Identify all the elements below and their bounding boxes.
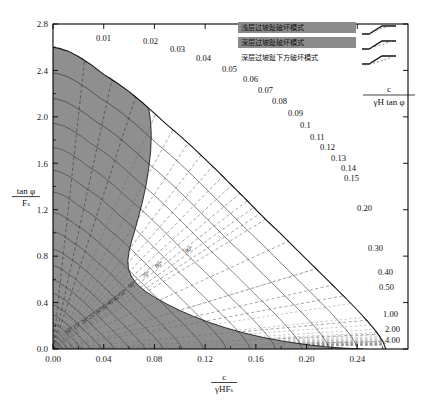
radial-contour-label: 1.00 [383, 309, 398, 319]
radial-contour-label: 0.04 [196, 53, 212, 63]
x-axis-numerator: c [222, 372, 226, 382]
radial-contour-label: 0.01 [96, 33, 111, 43]
x-tick-label: 0.08 [147, 354, 163, 364]
legend-label: 深层过坡趾破坏模式 [241, 38, 304, 47]
radial-contour-label: 0.11 [310, 132, 325, 142]
legend-param-numerator: c [387, 84, 391, 94]
x-axis-denominator: γHFₛ [214, 384, 233, 394]
radial-contour-label: 0.15 [344, 173, 359, 183]
legend-param-denominator: γH tan φ [372, 97, 404, 107]
y-tick-label: 0.8 [37, 251, 49, 261]
chart-container: 0.000.040.080.120.160.200.240.00.40.81.2… [0, 0, 448, 404]
legend-item: 深层过坡趾破坏模式 [238, 37, 356, 48]
y-tick-label: 1.2 [37, 205, 48, 215]
x-tick-label: 0.20 [299, 354, 315, 364]
radial-contour-label: 0.13 [331, 153, 346, 163]
y-axis-numerator: tan φ [17, 186, 35, 196]
radial-contour-label: 0.50 [379, 282, 394, 292]
y-tick-label: 0.0 [37, 344, 49, 354]
radial-contour-label: 0.12 [320, 142, 335, 152]
y-tick-label: 2.0 [37, 112, 49, 122]
y-tick-label: 1.6 [37, 159, 49, 169]
radial-contour-label: 0.40 [378, 267, 393, 277]
radial-contour-label: 0.09 [288, 108, 303, 118]
x-tick-label: 0.04 [96, 354, 112, 364]
radial-contour-label: 0.06 [243, 74, 258, 84]
radial-contour-label: 0.30 [368, 243, 383, 253]
radial-contour-label: 2.00 [385, 324, 400, 334]
radial-contour-label: 0.03 [170, 44, 185, 54]
y-tick-label: 2.8 [37, 19, 49, 29]
x-tick-label: 0.00 [45, 354, 61, 364]
radial-contour-label: 0.07 [258, 85, 273, 95]
slope-stability-design-chart: 0.000.040.080.120.160.200.240.00.40.81.2… [0, 0, 448, 404]
radial-contour-label: 0.20 [357, 203, 372, 213]
y-tick-label: 0.4 [37, 298, 49, 308]
legend-item: 深层过坡趾下方破坏模式 [241, 53, 318, 62]
x-tick-label: 0.24 [349, 354, 365, 364]
radial-contour-label: 0.05 [222, 64, 237, 74]
y-axis-denominator: Fₛ [22, 198, 30, 208]
legend-label: 浅层过坡趾破坏模式 [241, 23, 304, 32]
radial-contour-label: 0.1 [300, 120, 311, 130]
radial-contour-label: 0.02 [143, 36, 158, 46]
radial-contour-label: 0.08 [272, 96, 287, 106]
legend-label: 深层过坡趾下方破坏模式 [241, 53, 318, 62]
radial-contour-label: 0.14 [341, 163, 357, 173]
x-tick-label: 0.16 [248, 354, 264, 364]
radial-contour-label: 4.00 [385, 335, 400, 345]
x-tick-label: 0.12 [197, 354, 213, 364]
legend-item: 浅层过坡趾破坏模式 [238, 22, 356, 33]
y-tick-label: 2.4 [37, 66, 49, 76]
